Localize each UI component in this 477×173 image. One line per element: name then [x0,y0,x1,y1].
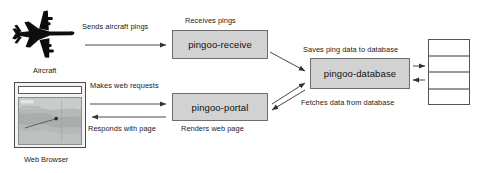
database-table-icon [428,39,470,105]
browser-window-icon[interactable] [14,82,86,148]
edge-label-responds-with-page: Responds with page [88,124,156,133]
service-label: pingoo-portal [192,102,249,113]
service-label: pingoo-database [324,68,396,79]
service-box-pingoo-portal[interactable]: pingoo-portal [172,93,268,121]
architecture-diagram: Aircraft Web Browser pingoo-receive ping… [0,0,477,173]
browser-map-viewport [18,97,82,145]
airplane-icon [8,6,80,64]
service-box-pingoo-receive[interactable]: pingoo-receive [172,30,268,59]
edge-label-makes-web-requests: Makes web requests [90,81,159,90]
database-row [429,73,469,90]
arrow-receive-to-database [270,52,305,71]
service-label: pingoo-receive [188,39,252,50]
label-receives-pings: Receives pings [185,16,236,25]
edge-label-sends-aircraft-pings: Sends aircraft pings [82,22,148,31]
database-row [429,57,469,74]
flight-map-image [19,98,81,144]
database-row [429,40,469,57]
label-saves-ping-data: Saves ping data to database [303,45,398,54]
web-browser-caption: Web Browser [24,155,68,164]
database-row [429,90,469,105]
label-fetches-data: Fetches data from database [301,98,394,107]
browser-url-bar[interactable] [18,86,82,94]
label-renders-web-page: Renders web page [181,124,244,133]
service-box-pingoo-database[interactable]: pingoo-database [310,58,410,89]
aircraft-caption: Aircraft [33,66,56,75]
